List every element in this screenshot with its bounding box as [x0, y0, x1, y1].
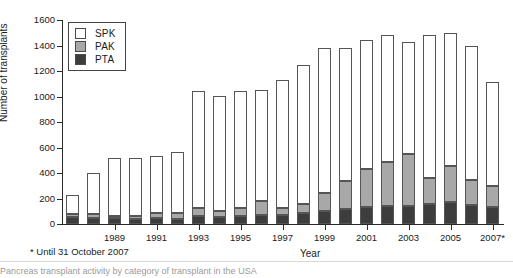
y-tick-label: 1000 — [34, 92, 55, 102]
legend-swatch-icon — [75, 28, 86, 39]
bar-segment-spk — [297, 65, 310, 204]
x-tick-label: 1989 — [104, 233, 125, 243]
y-tick-label: 800 — [39, 117, 55, 127]
x-tick-label: 1995 — [230, 233, 251, 243]
bar-segment-spk — [171, 152, 184, 214]
bar-2005 — [444, 33, 457, 224]
footnote: * Until 31 October 2007 — [30, 246, 129, 257]
y-tick-label: 0 — [50, 219, 55, 229]
bar-segment-spk — [318, 48, 331, 193]
bar-segment-spk — [381, 35, 394, 163]
bar-segment-pta — [360, 207, 373, 224]
bar-1988 — [87, 173, 100, 224]
bar-2000 — [339, 48, 352, 224]
bar-segment-spk — [192, 91, 205, 209]
bar-segment-pta — [465, 205, 478, 224]
bar-segment-pta — [276, 215, 289, 224]
bar-1991 — [150, 156, 163, 224]
bar-segment-spk — [129, 158, 142, 216]
bar-segment-spk — [465, 46, 478, 181]
bar-segment-spk — [87, 173, 100, 214]
bar-1999 — [318, 48, 331, 224]
bar-segment-spk — [444, 33, 457, 166]
bar-segment-spk — [360, 40, 373, 168]
legend-label: SPK — [95, 29, 116, 39]
bar-segment-spk — [66, 195, 79, 215]
bar-2007star — [486, 82, 499, 224]
y-tick-label: 1200 — [34, 66, 55, 76]
y-tick-mark — [57, 148, 62, 149]
bar-segment-spk — [339, 48, 352, 181]
y-tick-mark — [57, 122, 62, 123]
bar-segment-spk — [108, 158, 121, 216]
bar-segment-pak — [465, 180, 478, 205]
y-tick-label: 200 — [39, 194, 55, 204]
legend-item-pak: PAK — [75, 40, 116, 53]
x-tick-label: 1991 — [146, 233, 167, 243]
legend-label: PAK — [95, 42, 115, 52]
bar-segment-spk — [423, 35, 436, 178]
y-tick-label: 600 — [39, 143, 55, 153]
bar-1995 — [234, 91, 247, 224]
legend-label: PTA — [95, 55, 114, 65]
bar-segment-pak — [150, 213, 163, 218]
legend-swatch-icon — [75, 41, 86, 52]
bar-segment-pak — [171, 213, 184, 219]
bar-segment-pak — [87, 214, 100, 217]
bar-segment-spk — [234, 91, 247, 208]
y-tick-label: 1400 — [34, 41, 55, 51]
bar-segment-pak — [318, 193, 331, 211]
bar-2004 — [423, 35, 436, 224]
y-axis-title: Number of transplants — [0, 24, 9, 122]
bar-segment-pta — [255, 215, 268, 224]
bar-2003 — [402, 42, 415, 224]
y-tick-mark — [57, 46, 62, 47]
x-tick-mark — [157, 225, 158, 230]
y-tick-mark — [57, 97, 62, 98]
x-axis-title: Year — [300, 248, 320, 259]
x-tick-mark — [493, 225, 494, 230]
legend-item-pta: PTA — [75, 53, 116, 66]
x-tick-label: 1999 — [314, 233, 335, 243]
x-tick-mark — [283, 225, 284, 230]
bar-segment-pta — [423, 204, 436, 224]
caption-divider — [0, 261, 513, 262]
bar-segment-pak — [255, 201, 268, 215]
bar-segment-pta — [381, 206, 394, 224]
bar-segment-pak — [192, 208, 205, 216]
figure-caption: Pancreas transplant activity by category… — [0, 266, 513, 276]
bar-segment-pta — [234, 216, 247, 224]
x-tick-mark — [199, 225, 200, 230]
bar-segment-pta — [486, 207, 499, 224]
caption-text: Pancreas transplant activity by category… — [0, 266, 257, 276]
bar-segment-pta — [297, 213, 310, 224]
y-tick-mark — [57, 173, 62, 174]
bar-segment-pak — [276, 208, 289, 215]
x-tick-mark — [451, 225, 452, 230]
x-tick-label: 2003 — [398, 233, 419, 243]
x-tick-label: 1997 — [272, 233, 293, 243]
bar-segment-pak — [129, 216, 142, 219]
bar-segment-spk — [486, 82, 499, 186]
figure-panel: 02004006008001000120014001600 1989199119… — [0, 0, 513, 278]
x-tick-mark — [325, 225, 326, 230]
x-tick-label: 2007* — [480, 233, 505, 243]
x-tick-mark — [115, 225, 116, 230]
bar-segment-pta — [402, 206, 415, 224]
bar-segment-pta — [318, 211, 331, 224]
bar-segment-pak — [360, 169, 373, 208]
x-tick-label: 2001 — [356, 233, 377, 243]
bar-segment-pak — [108, 216, 121, 219]
bar-segment-pak — [213, 211, 226, 217]
bar-1992 — [171, 152, 184, 224]
x-tick-mark — [241, 225, 242, 230]
bar-1997 — [276, 80, 289, 224]
y-tick-label: 400 — [39, 168, 55, 178]
y-axis-line — [62, 20, 63, 225]
bar-segment-pak — [339, 181, 352, 209]
x-tick-mark — [409, 225, 410, 230]
bar-1996 — [255, 90, 268, 224]
bar-segment-pak — [234, 208, 247, 216]
bar-segment-pak — [486, 186, 499, 207]
plot-area — [62, 20, 503, 224]
